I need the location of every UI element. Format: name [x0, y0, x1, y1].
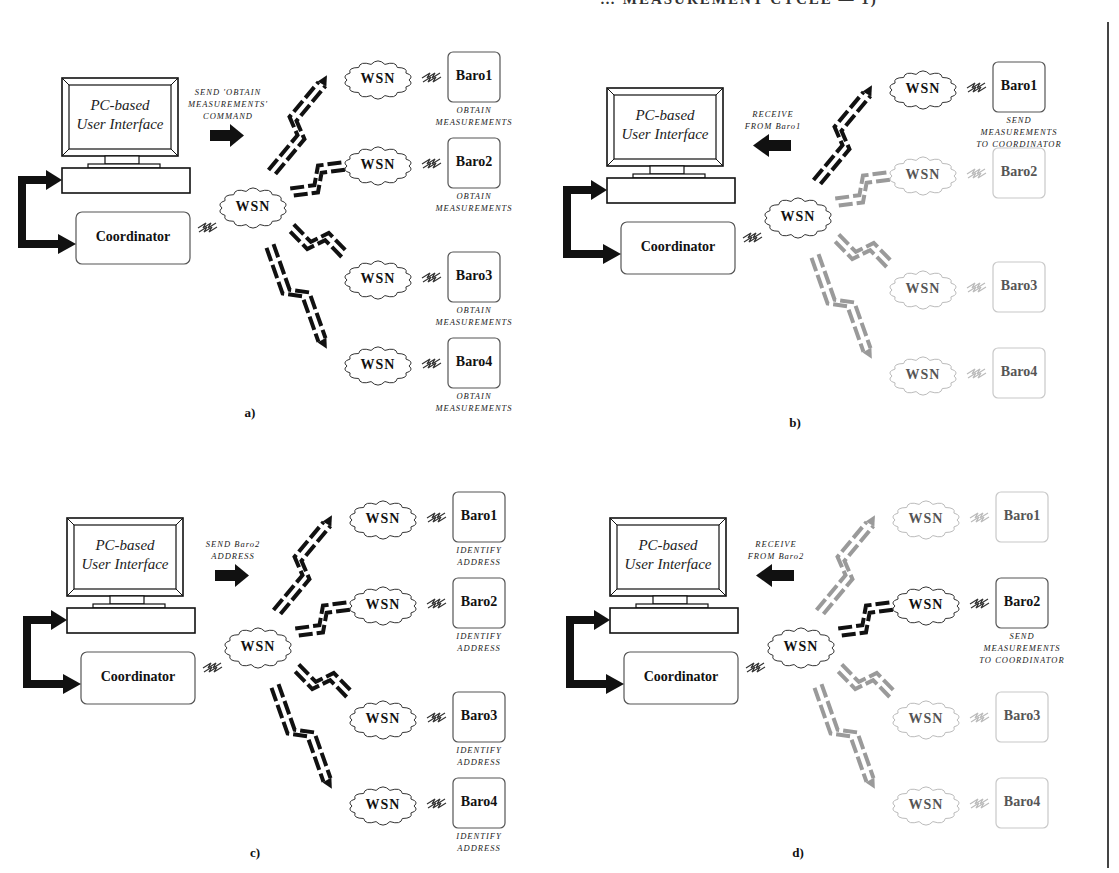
pc-arrow-caption-line: COMMAND — [188, 110, 268, 122]
baro-sensor-label: Baro4 — [453, 794, 505, 810]
wsn-node-label: WSN — [353, 797, 413, 813]
baro-action-caption: OBTAINMEASUREMENTS — [424, 190, 524, 214]
baro-action-caption-line: OBTAIN — [424, 104, 524, 116]
baro-sensor-label: Baro1 — [993, 78, 1045, 94]
baro-action-caption: OBTAINMEASUREMENTS — [424, 304, 524, 328]
figure-header-fragment: … MEASUREMENT CYCLE — 1) — [600, 0, 1119, 5]
baro-sensor-label: Baro4 — [996, 794, 1048, 810]
baro-sensor-label: Baro1 — [453, 508, 505, 524]
coordinator-label: Coordinator — [621, 239, 735, 255]
wsn-node-label: WSN — [353, 511, 413, 527]
wsn-hub-label: WSN — [223, 199, 283, 215]
pc-base-unit — [67, 608, 195, 633]
baro-action-caption-line: MEASUREMENTS — [969, 126, 1069, 138]
wsn-node-label: WSN — [896, 797, 956, 813]
panel-label: a) — [230, 405, 270, 421]
panel-label: c) — [235, 845, 275, 861]
baro-action-caption: OBTAINMEASUREMENTS — [424, 390, 524, 414]
panel-d: PC-basedUser InterfaceCoordinatorRECEIVE… — [548, 440, 1108, 870]
pc-label: PC-basedUser Interface — [75, 536, 175, 574]
pc-base-unit — [62, 168, 190, 193]
baro-action-caption-line: TO COORDINATOR — [969, 138, 1069, 150]
pc-label-line2: User Interface — [70, 115, 170, 134]
baro-sensor-label: Baro3 — [996, 708, 1048, 724]
panel-c: PC-basedUser InterfaceCoordinatorSEND Ba… — [5, 440, 565, 870]
pc-label: PC-basedUser Interface — [615, 106, 715, 144]
baro-sensor-label: Baro3 — [993, 278, 1045, 294]
pc-arrow-caption-line: ADDRESS — [193, 550, 273, 562]
baro-action-caption-line: MEASUREMENTS — [972, 642, 1072, 654]
pc-label-line2: User Interface — [618, 555, 718, 574]
baro-sensor-label: Baro4 — [993, 364, 1045, 380]
wsn-node-label: WSN — [893, 167, 953, 183]
send-arrow-icon — [215, 564, 249, 587]
baro-action-caption-line: TO COORDINATOR — [972, 654, 1072, 666]
wsn-node-label: WSN — [893, 281, 953, 297]
baro-sensor-label: Baro3 — [453, 708, 505, 724]
wsn-node-label: WSN — [348, 71, 408, 87]
pc-arrow-caption-line: FROM Baro1 — [733, 120, 813, 132]
coordinator-label: Coordinator — [624, 669, 738, 685]
baro-sensor-label: Baro4 — [448, 354, 500, 370]
coordinator-label: Coordinator — [76, 229, 190, 245]
pc-arrow-caption: RECEIVEFROM Baro1 — [733, 108, 813, 132]
send-arrow-icon — [210, 124, 244, 147]
pc-label-line2: User Interface — [75, 555, 175, 574]
baro-action-caption-line: SEND — [972, 630, 1072, 642]
baro-action-caption-line: OBTAIN — [424, 304, 524, 316]
baro-sensor-label: Baro2 — [996, 594, 1048, 610]
pc-arrow-caption-line: RECEIVE — [736, 538, 816, 550]
pc-label-line2: User Interface — [615, 125, 715, 144]
wsn-node-label: WSN — [893, 81, 953, 97]
baro-action-caption-line: OBTAIN — [424, 190, 524, 202]
pc-arrow-caption-line: SEND Baro2 — [193, 538, 273, 550]
pc-label-line1: PC-based — [615, 106, 715, 125]
wsn-node-label: WSN — [893, 367, 953, 383]
coordinator-label: Coordinator — [81, 669, 195, 685]
baro-action-caption-line: SEND — [969, 114, 1069, 126]
baro-action-caption: IDENTIFYADDRESS — [429, 544, 529, 568]
receive-arrow-icon — [756, 564, 794, 587]
baro-sensor-label: Baro2 — [453, 594, 505, 610]
wsn-node-label: WSN — [896, 511, 956, 527]
wsn-hub-label: WSN — [768, 209, 828, 225]
baro-action-caption: SENDMEASUREMENTSTO COORDINATOR — [972, 630, 1072, 666]
pc-arrow-caption-line: RECEIVE — [733, 108, 813, 120]
wsn-node-label: WSN — [348, 271, 408, 287]
wsn-node-label: WSN — [896, 597, 956, 613]
pc-base-unit — [607, 178, 735, 203]
baro-action-caption: OBTAINMEASUREMENTS — [424, 104, 524, 128]
panel-b: PC-basedUser InterfaceCoordinatorRECEIVE… — [545, 10, 1105, 440]
wsn-hub-label: WSN — [228, 639, 288, 655]
panel-a: PC-basedUser InterfaceCoordinatorSEND 'O… — [0, 0, 560, 430]
baro-action-caption-line: IDENTIFY — [429, 830, 529, 842]
pc-arrow-caption-line: MEASUREMENTS' — [188, 98, 268, 110]
wsn-node-label: WSN — [353, 597, 413, 613]
pc-arrow-caption: RECEIVEFROM Baro2 — [736, 538, 816, 562]
pc-label: PC-basedUser Interface — [70, 96, 170, 134]
pc-label-line1: PC-based — [75, 536, 175, 555]
pc-label: PC-basedUser Interface — [618, 536, 718, 574]
baro-action-caption-line: IDENTIFY — [429, 544, 529, 556]
wsn-node-label: WSN — [348, 357, 408, 373]
pc-label-line1: PC-based — [70, 96, 170, 115]
baro-action-caption: IDENTIFYADDRESS — [429, 744, 529, 768]
pc-arrow-caption: SEND Baro2ADDRESS — [193, 538, 273, 562]
baro-action-caption-line: IDENTIFY — [429, 630, 529, 642]
baro-action-caption-line: MEASUREMENTS — [424, 316, 524, 328]
baro-action-caption-line: MEASUREMENTS — [424, 116, 524, 128]
baro-action-caption: SENDMEASUREMENTSTO COORDINATOR — [969, 114, 1069, 150]
baro-action-caption-line: IDENTIFY — [429, 744, 529, 756]
pc-arrow-caption: SEND 'OBTAINMEASUREMENTS'COMMAND — [188, 86, 268, 122]
baro-sensor-label: Baro1 — [996, 508, 1048, 524]
wsn-node-label: WSN — [896, 711, 956, 727]
pc-arrow-caption-line: FROM Baro2 — [736, 550, 816, 562]
pc-arrow-caption-line: SEND 'OBTAIN — [188, 86, 268, 98]
receive-arrow-icon — [753, 134, 791, 157]
baro-sensor-label: Baro2 — [448, 154, 500, 170]
wsn-hub-label: WSN — [771, 639, 831, 655]
baro-action-caption: IDENTIFYADDRESS — [429, 830, 529, 854]
baro-sensor-label: Baro3 — [448, 268, 500, 284]
baro-action-caption-line: ADDRESS — [429, 842, 529, 854]
baro-sensor-label: Baro1 — [448, 68, 500, 84]
